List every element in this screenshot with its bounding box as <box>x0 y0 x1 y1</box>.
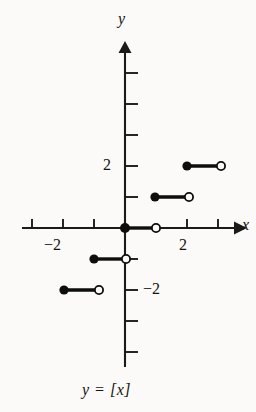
open-endpoint-1 <box>152 224 160 232</box>
figure-caption: y = [x] <box>82 382 131 398</box>
closed-endpoint-2 <box>182 161 191 170</box>
step-segment-0 <box>120 223 160 233</box>
y-tick-label-plus-2: 2 <box>103 157 111 173</box>
y-axis-label: y <box>118 11 125 27</box>
step-segment-minus-1 <box>89 254 130 263</box>
y-axis-ticks <box>125 73 138 352</box>
open-endpoint-3 <box>217 162 225 170</box>
y-axis-arrowhead <box>119 41 132 53</box>
floor-function-figure: y x −2 2 2 −2 y = [x] <box>0 0 256 412</box>
closed-endpoint-minus-2 <box>59 285 68 294</box>
open-endpoint-2 <box>185 193 193 201</box>
closed-endpoint-1 <box>150 192 159 201</box>
x-axis-label: x <box>242 217 249 233</box>
closed-endpoint-minus-1 <box>89 254 98 263</box>
plot-canvas <box>0 0 256 412</box>
closed-endpoint-0 <box>120 223 130 233</box>
open-endpoint-minus-1 <box>95 286 103 294</box>
step-segment-1 <box>150 192 193 201</box>
x-tick-label-minus-2: −2 <box>44 237 61 253</box>
open-endpoint-0 <box>122 255 130 263</box>
step-segment-minus-2 <box>59 285 103 294</box>
x-tick-label-plus-2: 2 <box>179 237 187 253</box>
axis-group <box>22 41 247 367</box>
step-segment-2 <box>182 161 225 170</box>
y-tick-label-minus-2: −2 <box>143 281 160 297</box>
